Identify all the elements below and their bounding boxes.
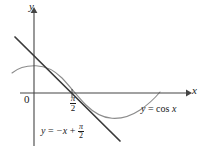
- cos-label-equals: =: [145, 103, 156, 114]
- math-figure: y x 0 π 2 y = cos x y = −x + π2: [0, 0, 205, 149]
- fraction-denominator: 2: [70, 104, 77, 113]
- line-label-plus: +: [67, 125, 78, 136]
- line-label-equals: =: [45, 125, 56, 136]
- graph-canvas: [0, 0, 205, 149]
- tick-label-pi-over-2: π 2: [66, 94, 80, 113]
- fraction-pi-over-2: π 2: [70, 94, 77, 113]
- cosine-curve-label: y = cos x: [141, 104, 176, 114]
- tangent-line-label: y = −x + π2: [41, 123, 84, 140]
- line-label-fraction: π2: [78, 123, 84, 140]
- y-axis-label: y: [29, 1, 34, 12]
- cos-label-function: cos: [156, 103, 172, 114]
- cos-label-variable: x: [172, 103, 176, 114]
- x-axis-label: x: [192, 85, 197, 96]
- line-label-fraction-denominator: 2: [78, 132, 84, 140]
- line-label-linear-term: −x: [56, 125, 67, 136]
- origin-label: 0: [24, 94, 30, 105]
